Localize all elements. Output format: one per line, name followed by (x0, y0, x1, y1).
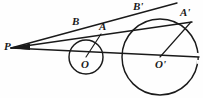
label-point-p: P (4, 41, 11, 52)
geometry-figure: P B A B' A' O O' (0, 0, 203, 98)
label-center-o-prime: O' (155, 59, 166, 70)
center-line-P-O-Oprime (11, 48, 199, 57)
radius-Oprime-Aprime (160, 22, 191, 57)
label-point-a: A (99, 21, 106, 32)
geometry-canvas (0, 0, 203, 98)
label-point-b: B (72, 16, 79, 27)
label-point-b-prime: B' (133, 1, 143, 12)
label-point-a-prime: A' (180, 7, 190, 18)
label-center-o: O (81, 59, 89, 70)
